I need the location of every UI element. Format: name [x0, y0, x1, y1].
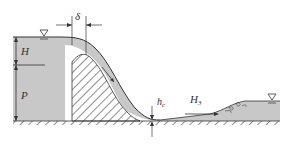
water-body [13, 37, 280, 121]
label-hc: hc [157, 96, 166, 109]
label-H3: H3 [189, 93, 202, 107]
label-H: H [20, 45, 30, 57]
label-delta: δ [75, 10, 81, 22]
upstream-water-surface-icon [40, 30, 48, 36]
dim-arrow [86, 23, 91, 27]
downstream-water-surface-icon [268, 94, 276, 100]
channel-bed [13, 121, 280, 125]
dim-arrow [67, 23, 72, 27]
weir-flow-diagram: H P δ hc H3 [0, 0, 292, 149]
label-P: P [20, 89, 28, 101]
